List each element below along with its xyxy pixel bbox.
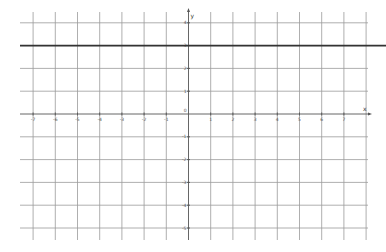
x-tick-label: 4 (276, 117, 279, 122)
y-tick-label: -1 (182, 134, 187, 139)
x-tick-label: -2 (142, 117, 147, 122)
y-tick-label: -5 (182, 226, 187, 231)
x-tick-label: -5 (75, 117, 80, 122)
x-tick-label: -4 (97, 117, 102, 122)
y-tick-label: 1 (184, 89, 187, 94)
x-tick-label: 1 (209, 117, 212, 122)
y-tick-label: -4 (182, 203, 187, 208)
y-tick-label: 4 (184, 20, 187, 25)
x-tick-label: -7 (31, 117, 36, 122)
x-tick-label: 2 (231, 117, 234, 122)
y-tick-label: 2 (184, 66, 187, 71)
x-tick-label: -1 (164, 117, 169, 122)
x-tick-label: 3 (254, 117, 257, 122)
y-tick-label: -3 (182, 180, 187, 185)
origin-label: 0 (184, 108, 187, 113)
x-tick-label: -3 (120, 117, 125, 122)
x-axis-label: x (363, 105, 367, 112)
x-tick-label: 7 (342, 117, 345, 122)
y-tick-label: -2 (182, 157, 187, 162)
y-axis-label: y (191, 12, 195, 20)
horizontal-gridlines (20, 23, 368, 228)
coordinate-plane: xy -7-6-5-4-3-2-112345674321-1-2-3-4-50 (0, 0, 386, 252)
x-tick-label: 5 (298, 117, 301, 122)
x-axis-arrow-icon (368, 113, 372, 116)
x-tick-label: -6 (53, 117, 58, 122)
x-tick-label: 6 (320, 117, 323, 122)
